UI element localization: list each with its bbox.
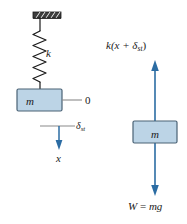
mass-label-right: m xyxy=(151,129,159,140)
diagram-vector-layer xyxy=(0,0,187,224)
static-deflection-label: δst xyxy=(76,121,85,133)
weight-label: W = mg xyxy=(128,201,162,212)
physics-diagram-figure: k m 0 δst x k(x + δst) m W = mg xyxy=(0,0,187,224)
displacement-arrow-x xyxy=(56,126,63,150)
weight-prefix: W xyxy=(128,200,137,212)
delta-subscript: st xyxy=(81,125,86,132)
weight-equals: = xyxy=(137,200,149,212)
weight-value: mg xyxy=(149,200,162,212)
spring-force-prefix: k(x + xyxy=(106,39,132,51)
spring-stiffness-label: k xyxy=(46,48,51,59)
equilibrium-origin-label: 0 xyxy=(85,95,91,106)
displacement-label: x xyxy=(56,153,61,164)
spring-coil-icon xyxy=(33,31,46,82)
ceiling-support-icon xyxy=(33,12,61,18)
mass-label-left: m xyxy=(26,96,34,107)
spring-force-suffix: ) xyxy=(142,39,146,51)
spring-force-label: k(x + δst) xyxy=(106,40,146,53)
mass-block-left xyxy=(17,89,62,111)
spring-force-arrow-up xyxy=(151,60,159,128)
